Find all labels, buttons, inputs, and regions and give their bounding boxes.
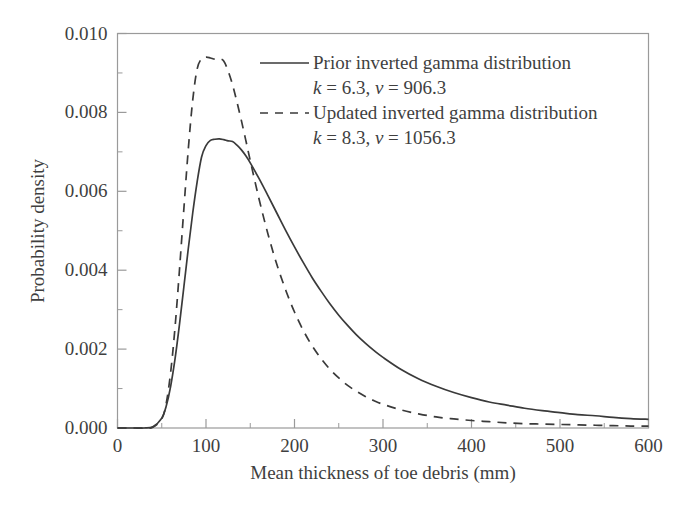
x-tick-label-600: 600: [634, 435, 663, 456]
y-tick-label-0.010: 0.010: [65, 23, 108, 44]
legend-k-value-updated: = 8.3,: [321, 127, 374, 148]
legend-k-value-prior: = 6.3,: [321, 77, 374, 98]
legend-params-prior: k = 6.3, ν = 906.3: [313, 77, 446, 98]
legend-label-prior: Prior inverted gamma distribution: [313, 52, 572, 73]
y-axis-title: Probability density: [27, 158, 48, 303]
legend-params-updated: k = 8.3, ν = 1056.3: [313, 127, 456, 148]
probability-density-chart: 0100200300400500600 0.0000.0020.0040.006…: [0, 0, 691, 511]
x-tick-label-300: 300: [369, 435, 398, 456]
x-tick-label-200: 200: [280, 435, 309, 456]
y-tick-label-0.000: 0.000: [65, 417, 108, 438]
legend-nu-value-updated: = 1056.3: [383, 127, 455, 148]
figure-container: 0100200300400500600 0.0000.0020.0040.006…: [0, 0, 691, 511]
x-tick-label-0: 0: [113, 435, 123, 456]
x-axis-title: Mean thickness of toe debris (mm): [250, 462, 515, 484]
y-tick-label-0.008: 0.008: [65, 101, 108, 122]
legend-label-updated: Updated inverted gamma distribution: [313, 102, 598, 123]
y-tick-label-0.002: 0.002: [65, 338, 108, 359]
x-tick-label-100: 100: [192, 435, 221, 456]
legend-nu-value-prior: = 906.3: [383, 77, 446, 98]
x-tick-label-500: 500: [546, 435, 575, 456]
y-tick-label-0.004: 0.004: [65, 259, 108, 280]
x-tick-label-400: 400: [457, 435, 486, 456]
y-tick-label-0.006: 0.006: [65, 180, 108, 201]
